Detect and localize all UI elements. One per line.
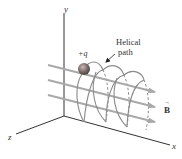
- z-axis-label: z: [7, 132, 12, 142]
- helical-motion-diagram: y x z +q Helical path → B: [0, 0, 182, 159]
- helical-path-label-line1: Helical: [116, 37, 141, 47]
- magnetic-field-label: B: [164, 105, 170, 115]
- x-axis: [64, 116, 170, 145]
- helical-path-label-line2: path: [118, 47, 133, 57]
- axes: y x z: [7, 4, 176, 151]
- path-label-pointer: [106, 54, 115, 62]
- y-axis-label: y: [63, 4, 68, 14]
- x-axis-label: x: [171, 141, 176, 151]
- charge-particle: [78, 63, 90, 75]
- z-axis: [16, 116, 64, 134]
- charge-label: +q: [78, 49, 87, 58]
